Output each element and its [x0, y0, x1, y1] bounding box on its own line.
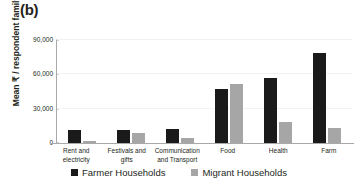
- x-axis-label: Communication and Transport: [152, 146, 203, 164]
- y-tick-label: 0: [3, 140, 53, 147]
- panel-label: (b): [20, 2, 38, 17]
- bar-group: [57, 40, 106, 143]
- x-axis-labels: Rent and electricityFestivals and giftsC…: [51, 146, 354, 168]
- bar-group: [155, 40, 204, 143]
- x-axis-label: Rent and electricity: [51, 146, 102, 164]
- bar-group: [254, 40, 303, 143]
- bar-farmer: [117, 130, 130, 144]
- bar-migrant: [181, 138, 194, 143]
- legend-label: Farmer Households: [82, 168, 165, 178]
- legend-label: Migrant Households: [202, 168, 287, 178]
- legend-item-migrant[interactable]: Migrant Households: [191, 168, 287, 178]
- bar-migrant: [279, 122, 292, 143]
- bar-migrant: [83, 141, 96, 143]
- bar-group: [303, 40, 352, 143]
- bar-farmer: [215, 89, 228, 143]
- chart-legend: Farmer HouseholdsMigrant Households: [0, 168, 358, 178]
- legend-swatch-icon: [191, 169, 198, 176]
- x-axis-line: [51, 143, 354, 144]
- bar-migrant: [132, 133, 145, 143]
- x-axis-label: Health: [253, 146, 304, 155]
- bar-migrant: [328, 128, 341, 143]
- x-axis-label: Festivals and gifts: [102, 146, 153, 164]
- y-tick-label: 30,000: [3, 105, 53, 112]
- bar-group: [205, 40, 254, 143]
- x-axis-label: Farm: [304, 146, 355, 155]
- legend-item-farmer[interactable]: Farmer Households: [71, 168, 165, 178]
- y-tick-label: 60,000: [3, 71, 53, 78]
- bar-farmer: [313, 53, 326, 143]
- plot-area: [57, 40, 352, 143]
- y-tick-label: 90,000: [3, 37, 53, 44]
- legend-swatch-icon: [71, 169, 78, 176]
- bar-group: [106, 40, 155, 143]
- y-axis-ticks: 030,00060,00090,000: [0, 40, 53, 143]
- bar-farmer: [166, 129, 179, 143]
- bar-migrant: [230, 84, 243, 143]
- bar-farmer: [264, 78, 277, 143]
- bar-farmer: [68, 130, 81, 143]
- x-axis-label: Food: [203, 146, 254, 155]
